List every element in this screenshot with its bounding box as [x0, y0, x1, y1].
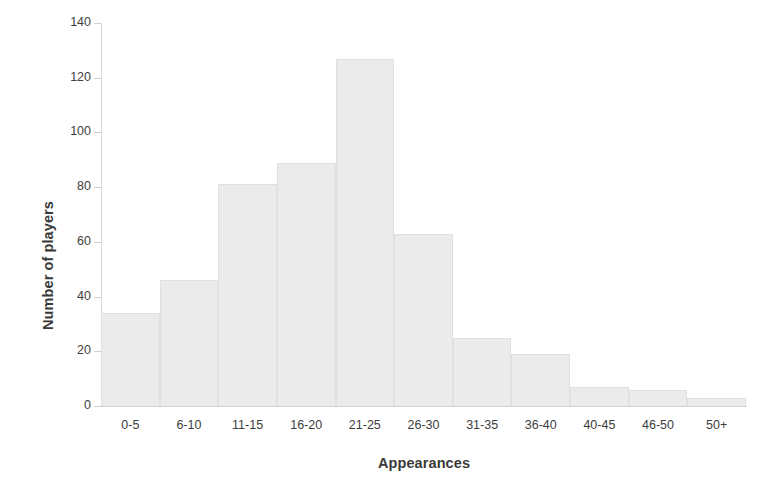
y-axis-tick: [94, 242, 101, 243]
y-axis-tick: [94, 351, 101, 352]
x-axis-tick-label: 6-10: [160, 418, 219, 432]
histogram-bar: [394, 234, 453, 406]
y-axis-tick-label: 40: [51, 289, 91, 303]
x-axis-tick-label: 21-25: [336, 418, 395, 432]
histogram-bar: [160, 280, 219, 406]
x-axis-tick-label: 50+: [687, 418, 746, 432]
x-axis-tick-label: 40-45: [570, 418, 629, 432]
histogram-bar: [511, 354, 570, 406]
y-axis-tick: [94, 78, 101, 79]
y-axis-tick-label: 120: [51, 70, 91, 84]
x-axis-tick-label: 31-35: [453, 418, 512, 432]
y-axis-tick: [94, 23, 101, 24]
x-axis-line: [101, 406, 747, 407]
y-axis-tick-label: 100: [51, 124, 91, 138]
histogram-bar: [687, 398, 746, 406]
x-axis-title: Appearances: [101, 455, 747, 471]
x-axis-tick-label: 0-5: [101, 418, 160, 432]
histogram-bar: [277, 163, 336, 406]
y-axis-tick: [94, 187, 101, 188]
histogram-chart: Number of players Appearances 0204060801…: [0, 0, 778, 494]
histogram-bar: [570, 387, 629, 406]
histogram-bar: [218, 184, 277, 406]
y-axis-tick-label: 80: [51, 179, 91, 193]
x-axis-tick-label: 26-30: [394, 418, 453, 432]
y-axis-tick-label: 20: [51, 343, 91, 357]
y-axis-tick-label: 60: [51, 234, 91, 248]
x-axis-tick-label: 36-40: [511, 418, 570, 432]
y-axis-tick-label: 140: [51, 15, 91, 29]
x-axis-tick-label: 46-50: [629, 418, 688, 432]
y-axis-tick: [94, 406, 101, 407]
y-axis-tick-label: 0: [51, 398, 91, 412]
y-axis-tick: [94, 297, 101, 298]
histogram-bar: [453, 338, 512, 406]
plot-area: [101, 23, 746, 406]
histogram-bar: [336, 59, 395, 406]
histogram-bar: [101, 313, 160, 406]
histogram-bar: [629, 390, 688, 406]
x-axis-tick-label: 16-20: [277, 418, 336, 432]
y-axis-tick: [94, 132, 101, 133]
x-axis-tick-label: 11-15: [218, 418, 277, 432]
